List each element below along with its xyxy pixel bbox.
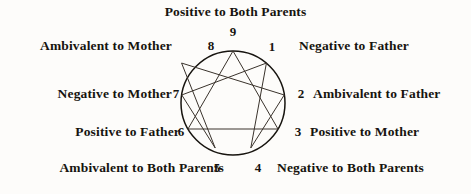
enneagram-hexad-1-4-2-8-5-7 [182, 63, 285, 148]
enneagram-point-9: 9 [226, 24, 240, 40]
enneagram-circle [181, 51, 285, 155]
enneagram-figure: Positive to Both Parents 9 1 2 3 4 5 6 7… [0, 0, 471, 194]
enneagram-point-2: 2 [294, 86, 308, 102]
label-point-8: Ambivalent to Mother [40, 38, 172, 54]
label-point-6: Positive to Father [75, 124, 180, 140]
label-point-3: Positive to Mother [310, 124, 419, 140]
enneagram-point-1: 1 [265, 39, 279, 55]
enneagram-point-8: 8 [204, 38, 218, 54]
label-point-7: Negative to Mother [58, 86, 172, 102]
label-point-4: Negative to Both Parents [277, 160, 424, 176]
enneagram-triangle-9-3-6 [188, 51, 278, 129]
label-point-2: Ambivalent to Father [313, 86, 440, 102]
label-point-1: Negative to Father [299, 38, 409, 54]
label-point-5: Ambivalent to Both Parents [59, 160, 224, 176]
enneagram-point-4: 4 [251, 160, 265, 176]
enneagram-point-3: 3 [291, 124, 305, 140]
